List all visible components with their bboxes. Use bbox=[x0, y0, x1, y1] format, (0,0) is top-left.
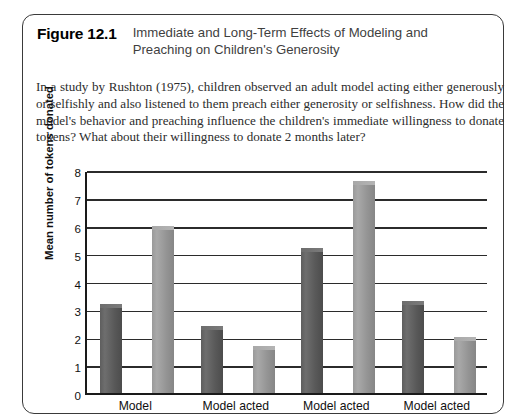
bar-cap bbox=[152, 226, 174, 230]
x-tick-label: Model acted bbox=[404, 399, 470, 413]
bar-chart: Mean number of tokens donated 012345678 … bbox=[33, 160, 495, 410]
bar-series bbox=[87, 172, 487, 393]
figure-card: Figure 12.1 Immediate and Long-Term Effe… bbox=[22, 14, 504, 414]
y-tick-label: 4 bbox=[75, 277, 81, 290]
y-tick-label: 0 bbox=[75, 389, 81, 402]
bar-cap bbox=[301, 248, 323, 252]
bar bbox=[201, 326, 223, 393]
figure-number: Figure 12.1 bbox=[37, 25, 117, 43]
y-tick-label: 5 bbox=[75, 249, 81, 262]
bar bbox=[100, 304, 122, 393]
bar bbox=[152, 226, 174, 393]
y-axis-label: Mean number of tokens donated bbox=[43, 86, 55, 260]
bar-cap bbox=[253, 346, 275, 350]
bar-cap bbox=[201, 326, 223, 330]
x-axis-labels: ModelModel actedModel actedModel acted bbox=[85, 399, 487, 418]
bar-cap bbox=[454, 337, 476, 341]
bar bbox=[353, 181, 375, 393]
figure-header: Figure 12.1 Immediate and Long-Term Effe… bbox=[37, 25, 489, 59]
bar bbox=[253, 346, 275, 393]
plot-area: 012345678 bbox=[85, 172, 487, 395]
bar-cap bbox=[402, 301, 424, 305]
bar-cap bbox=[353, 181, 375, 185]
x-tick-label: Model acted bbox=[203, 399, 269, 413]
x-tick-label: Model acted bbox=[303, 399, 369, 413]
y-tick-label: 7 bbox=[75, 193, 81, 206]
figure-description: In a study by Rushton (1975), children o… bbox=[36, 79, 504, 146]
plot-frame: 012345678 bbox=[85, 172, 487, 395]
y-tick-label: 6 bbox=[75, 221, 81, 234]
bar bbox=[301, 248, 323, 393]
figure-title: Immediate and Long-Term Effects of Model… bbox=[133, 25, 478, 59]
x-tick-label: Model bbox=[119, 399, 152, 413]
y-tick-label: 8 bbox=[75, 166, 81, 179]
bar-cap bbox=[100, 304, 122, 308]
y-tick-label: 3 bbox=[75, 305, 81, 318]
y-tick-label: 2 bbox=[75, 333, 81, 346]
y-tick-label: 1 bbox=[75, 361, 81, 374]
bar bbox=[402, 301, 424, 393]
bar bbox=[454, 337, 476, 393]
